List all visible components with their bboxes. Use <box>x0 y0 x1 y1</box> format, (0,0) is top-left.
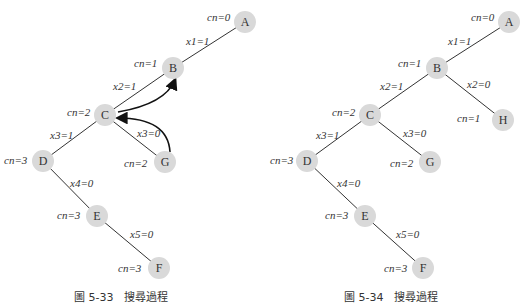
cn-label-d: cn=3 <box>270 154 294 166</box>
cn-label-g: cn=2 <box>124 157 148 169</box>
cn-label-b: cn=1 <box>398 57 421 69</box>
svg-text:E: E <box>361 209 368 223</box>
search-tree-diagrams: A B C D E F G cn=0 cn=1 cn=2 cn=3 cn=3 c… <box>0 0 525 304</box>
edge-e-f <box>97 216 159 268</box>
svg-text:A: A <box>505 15 514 29</box>
node-b: B <box>162 57 184 79</box>
svg-text:B: B <box>433 61 441 75</box>
cn-label-c: cn=2 <box>67 106 91 118</box>
edge-label-x2-left: x2=1 <box>379 80 403 92</box>
edge-label-x4: x4=0 <box>69 177 94 189</box>
node-c: C <box>94 104 116 126</box>
node-d: D <box>32 150 54 172</box>
node-f: F <box>412 257 434 279</box>
svg-text:C: C <box>366 108 374 122</box>
cn-label-f: cn=3 <box>118 262 142 274</box>
figure-5-34: A B C H D E F G cn=0 cn=1 cn=2 cn=1 cn=3… <box>270 11 520 279</box>
cn-label-e: cn=3 <box>57 209 81 221</box>
node-g: G <box>154 151 176 173</box>
edge-label-x5: x5=0 <box>395 228 420 240</box>
node-a: A <box>498 11 520 33</box>
cn-label-d: cn=3 <box>4 154 28 166</box>
edge-label-x3-right: x3=0 <box>136 127 161 139</box>
node-a: A <box>234 11 256 33</box>
node-g: G <box>419 151 441 173</box>
edge-label-x3-right: x3=0 <box>402 127 427 139</box>
svg-text:F: F <box>420 261 427 275</box>
figure-caption-5-34: 圖 5-34 搜尋過程 <box>344 288 438 304</box>
svg-text:G: G <box>161 155 170 169</box>
figure-caption-5-33: 圖 5-33 搜尋過程 <box>74 288 168 304</box>
edge-label-x1: x1=1 <box>185 35 209 47</box>
node-e: E <box>86 205 108 227</box>
edge-label-x3-left: x3=1 <box>315 129 339 141</box>
svg-text:E: E <box>93 209 100 223</box>
cn-label-e: cn=3 <box>325 209 349 221</box>
edge-label-x2: x2=1 <box>112 80 136 92</box>
svg-text:C: C <box>101 108 109 122</box>
svg-text:F: F <box>156 261 163 275</box>
cn-label-a: cn=0 <box>207 11 231 23</box>
cn-label-h: cn=1 <box>457 112 480 124</box>
svg-text:A: A <box>241 15 250 29</box>
cn-label-a: cn=0 <box>471 11 495 23</box>
edge-label-x1: x1=1 <box>447 35 471 47</box>
node-e: E <box>354 205 376 227</box>
edge-label-x3-left: x3=1 <box>49 129 73 141</box>
cn-label-f: cn=3 <box>384 262 408 274</box>
edge-label-x4: x4=0 <box>336 177 361 189</box>
cn-label-c: cn=2 <box>332 106 356 118</box>
node-h: H <box>492 109 514 131</box>
svg-text:H: H <box>499 113 508 127</box>
node-c: C <box>359 104 381 126</box>
svg-text:D: D <box>39 154 48 168</box>
node-f: F <box>148 257 170 279</box>
cn-label-b: cn=1 <box>134 57 157 69</box>
svg-text:B: B <box>169 61 177 75</box>
cn-label-g: cn=2 <box>390 157 414 169</box>
edge-label-x2-right: x2=0 <box>466 78 491 90</box>
node-b: B <box>426 57 448 79</box>
edge-e-f <box>365 216 423 268</box>
node-d: D <box>296 150 318 172</box>
svg-text:G: G <box>426 155 435 169</box>
edge-label-x5: x5=0 <box>129 228 154 240</box>
svg-text:D: D <box>303 154 312 168</box>
figure-5-33: A B C D E F G cn=0 cn=1 cn=2 cn=3 cn=3 c… <box>4 11 256 279</box>
